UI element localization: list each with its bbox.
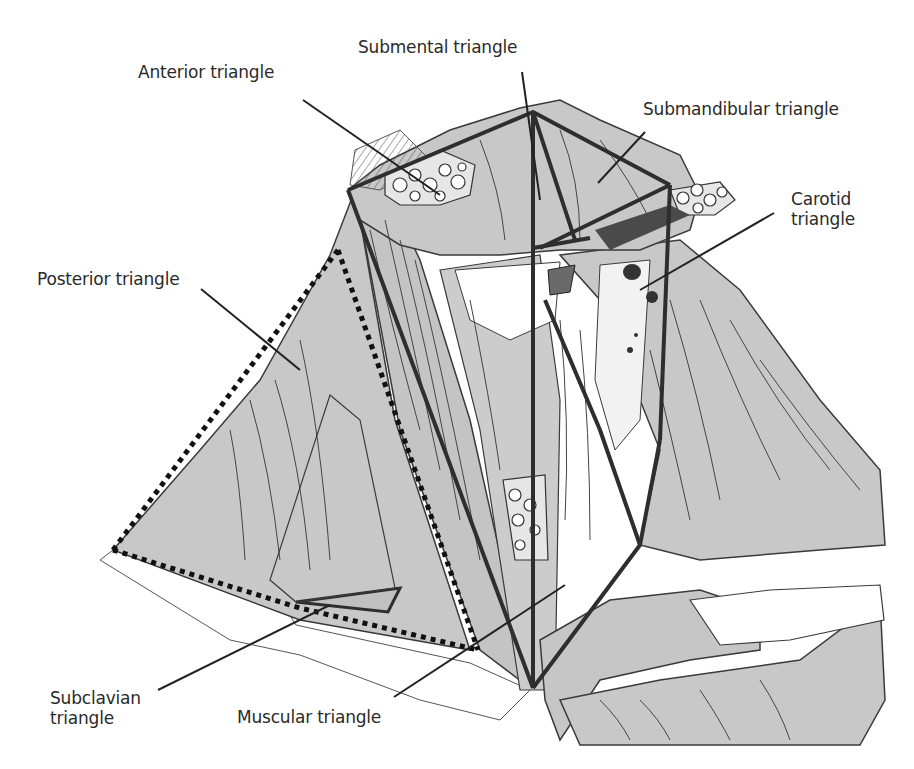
label-submandibular-triangle: Submandibular triangle xyxy=(643,99,839,119)
neck-musculature xyxy=(113,100,885,745)
label-anterior-triangle: Anterior triangle xyxy=(138,62,274,82)
label-posterior-triangle: Posterior triangle xyxy=(37,269,179,289)
label-muscular-triangle: Muscular triangle xyxy=(237,707,381,727)
label-submental-triangle: Submental triangle xyxy=(358,37,517,57)
label-subclavian-triangle: Subclavian triangle xyxy=(50,688,141,728)
label-carotid-triangle: Carotid triangle xyxy=(791,189,855,229)
